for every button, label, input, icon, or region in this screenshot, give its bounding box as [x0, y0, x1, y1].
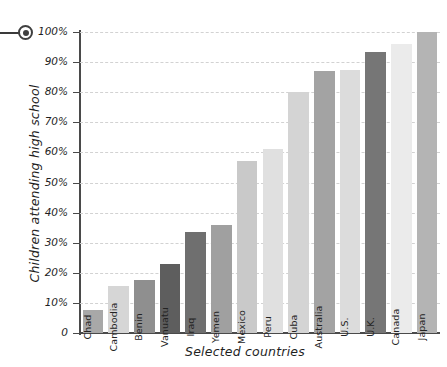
- bar-vanuatu[interactable]: Vanuatu: [160, 264, 181, 333]
- y-axis-tick: [73, 303, 80, 304]
- y-axis-tick: [73, 32, 80, 33]
- x-axis-category-label: Cambodia: [108, 303, 119, 352]
- y-axis-tick-label: 20%: [24, 266, 68, 278]
- y-axis-tick-labels: 100%90%80%70%60%50%40%30%20%10%0: [18, 0, 68, 367]
- x-axis-category-label: Peru: [262, 316, 273, 338]
- y-axis-tick: [73, 333, 80, 334]
- x-axis-category-label: U.S.: [339, 317, 350, 336]
- bar-chart: Children attending high school Selected …: [0, 0, 447, 367]
- y-axis-tick-label: 0: [24, 326, 68, 338]
- bar-series: ChadCambodiaBeninVanuatuIraqYemenMexicoP…: [80, 32, 440, 333]
- y-axis-tick: [73, 213, 80, 214]
- y-axis-tick-label: 30%: [24, 236, 68, 248]
- y-axis-tick-label: 80%: [24, 85, 68, 97]
- x-axis-category-label: Canada: [390, 309, 401, 346]
- x-axis-category-label: Benin: [133, 313, 144, 341]
- plot-area: ChadCambodiaBeninVanuatuIraqYemenMexicoP…: [80, 32, 440, 333]
- y-axis-tick-label: 100%: [24, 25, 68, 37]
- y-axis-tick-label: 10%: [24, 296, 68, 308]
- x-axis-category-label: U.K.: [365, 317, 376, 337]
- bar-cambodia[interactable]: Cambodia: [108, 286, 129, 333]
- bar-peru[interactable]: Peru: [263, 149, 284, 333]
- bar-yemen[interactable]: Yemen: [211, 225, 232, 333]
- x-axis-title: Selected countries: [80, 344, 410, 359]
- y-axis-tick: [73, 243, 80, 244]
- bar-australia[interactable]: Australia: [314, 71, 335, 333]
- x-axis-category-label: Mexico: [236, 310, 247, 344]
- y-axis-tick-label: 70%: [24, 115, 68, 127]
- y-axis-tick-label: 90%: [24, 55, 68, 67]
- bar-benin[interactable]: Benin: [134, 280, 155, 333]
- bar-canada[interactable]: Canada: [391, 44, 412, 333]
- x-axis-category-label: Yemen: [210, 311, 221, 343]
- x-axis-category-label: Vanuatu: [159, 307, 170, 347]
- bar-cuba[interactable]: Cuba: [288, 92, 309, 333]
- bar-u-s[interactable]: U.S.: [340, 70, 361, 333]
- y-axis-tick: [73, 183, 80, 184]
- y-axis-tick-label: 50%: [24, 176, 68, 188]
- y-axis-tick-label: 60%: [24, 145, 68, 157]
- bar-u-k[interactable]: U.K.: [365, 52, 386, 333]
- y-axis-tick: [73, 273, 80, 274]
- y-axis-tick-label: 40%: [24, 206, 68, 218]
- bar-mexico[interactable]: Mexico: [237, 161, 258, 333]
- x-axis-category-label: Chad: [82, 315, 93, 340]
- y-axis-tick: [73, 62, 80, 63]
- y-axis-tick: [73, 92, 80, 93]
- x-axis-category-label: Cuba: [288, 315, 299, 340]
- x-axis-category-label: Iraq: [185, 318, 196, 337]
- y-axis-tick: [73, 122, 80, 123]
- bar-iraq[interactable]: Iraq: [185, 232, 206, 333]
- x-axis-category-label: Australia: [313, 306, 324, 349]
- y-axis-tick: [73, 152, 80, 153]
- bar-japan[interactable]: Japan: [417, 32, 438, 333]
- bar-chad[interactable]: Chad: [83, 310, 104, 333]
- x-axis-category-label: Japan: [416, 314, 427, 341]
